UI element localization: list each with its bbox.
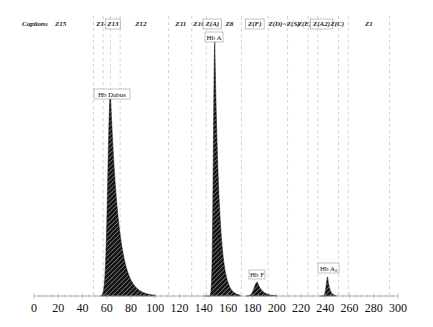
- x-tick-label: 60: [101, 301, 113, 315]
- zone-label: Z12: [134, 20, 147, 28]
- x-tick-label: 240: [316, 301, 334, 315]
- svg-text:Hb A: Hb A: [207, 34, 222, 42]
- x-axis: 0204060801001201401601802002202402602803…: [31, 294, 407, 316]
- zone-label: Z(C): [330, 20, 345, 28]
- x-tick-label: 300: [389, 301, 407, 315]
- x-tick-label: 180: [243, 301, 261, 315]
- svg-text:Hb Dabus: Hb Dabus: [98, 91, 126, 99]
- peak-label-hb-dabus: Hb Dabus: [94, 89, 130, 99]
- zone-labels: Captions Z15Z14Z13Z12Z11Z10Z(A)Z8Z(F)Z(D…: [22, 19, 373, 29]
- zone-boundaries: [93, 16, 389, 296]
- x-tick-label: 40: [77, 301, 89, 315]
- peak-hb-a2: [320, 277, 336, 296]
- peak-label-hb-a2: Hb A2: [318, 263, 339, 273]
- zone-label: Z(D): [267, 20, 282, 28]
- zone-label: Z(A2): [312, 20, 330, 28]
- peak-hb-dabus: [101, 93, 156, 296]
- peak-hb-a: [205, 42, 240, 296]
- x-tick-label: 280: [365, 301, 383, 315]
- peak-hb-f: [246, 282, 276, 296]
- x-tick-label: 80: [125, 301, 137, 315]
- x-tick-label: 160: [219, 301, 237, 315]
- zone-label: Z13: [106, 20, 119, 28]
- zone-label: Z15: [54, 20, 67, 28]
- peaks: [101, 42, 336, 296]
- peak-label-hb-a: Hb A: [205, 32, 223, 42]
- x-tick-label: 260: [340, 301, 358, 315]
- x-tick-label: 120: [171, 301, 189, 315]
- x-tick-label: 200: [268, 301, 286, 315]
- zone-label: Z(E): [297, 20, 312, 28]
- x-tick-label: 220: [292, 301, 310, 315]
- zone-label: Z11: [174, 20, 186, 28]
- captions-header: Captions: [22, 20, 48, 28]
- peak-label-hb-f: Hb F: [249, 270, 265, 279]
- zone-label: Z8: [224, 20, 233, 28]
- x-tick-label: 20: [52, 301, 64, 315]
- zone-label: Z1: [364, 20, 373, 28]
- zone-label: Z(F): [247, 20, 262, 28]
- x-tick-label: 0: [31, 301, 37, 315]
- svg-text:Hb F: Hb F: [250, 271, 264, 279]
- electrophoresis-chart: Captions Z15Z14Z13Z12Z11Z10Z(A)Z8Z(F)Z(D…: [0, 0, 433, 327]
- x-tick-label: 100: [146, 301, 164, 315]
- x-tick-label: 140: [195, 301, 213, 315]
- zone-label: Z(A): [205, 20, 220, 28]
